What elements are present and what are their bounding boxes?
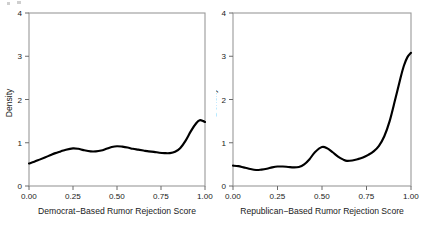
panel-democrat: 0 1 2 3 4 0.00 0.25 0.50 0.75 1.00 Democ… <box>0 0 216 228</box>
y-tick-label: 1 <box>17 139 22 148</box>
panel-democrat-svg: 0 1 2 3 4 0.00 0.25 0.50 0.75 1.00 Democ… <box>0 0 216 228</box>
corner-artifact-mark-2 <box>17 1 21 4</box>
y-tick-label: 3 <box>17 52 22 61</box>
x-axis-title: Republican−Based Rumor Rejection Score <box>240 206 404 216</box>
y-axis-ticks <box>229 13 233 186</box>
x-axis-title: Democrat−Based Rumor Rejection Score <box>38 206 196 216</box>
density-plot-figure: 0 1 2 3 4 0.00 0.25 0.50 0.75 1.00 Democ… <box>0 0 432 228</box>
x-tick-label: 0.50 <box>109 192 125 201</box>
y-axis-ticks <box>25 13 29 186</box>
corner-artifact-mark <box>7 2 10 5</box>
density-curve-republican <box>233 53 411 170</box>
x-tick-label: 0.25 <box>270 192 286 201</box>
y-tick-label: 2 <box>221 96 226 105</box>
y-tick-label: 3 <box>221 52 226 61</box>
x-axis-ticks <box>29 186 205 190</box>
x-tick-label: 0.00 <box>225 192 241 201</box>
x-tick-label: 0.25 <box>65 192 81 201</box>
x-tick-label: 1.00 <box>197 192 213 201</box>
y-tick-label: 1 <box>221 139 226 148</box>
x-tick-label: 1.00 <box>403 192 419 201</box>
panel-republican-svg: 0 1 2 3 4 0.00 0.25 0.50 0.75 1.00 Repub… <box>216 0 432 228</box>
x-tick-label: 0.75 <box>153 192 169 201</box>
y-tick-label: 2 <box>17 96 22 105</box>
y-axis-title: Density <box>216 88 218 117</box>
plot-frame <box>233 13 411 186</box>
y-axis-title: Density <box>4 88 14 117</box>
plot-frame <box>29 13 205 186</box>
x-axis-ticks <box>233 186 411 190</box>
y-tick-label: 0 <box>221 182 226 191</box>
panel-republican: 0 1 2 3 4 0.00 0.25 0.50 0.75 1.00 Repub… <box>216 0 432 228</box>
y-tick-label: 4 <box>221 9 226 18</box>
x-tick-label: 0.75 <box>359 192 375 201</box>
y-tick-label: 4 <box>17 9 22 18</box>
x-tick-label: 0.00 <box>21 192 37 201</box>
y-tick-label: 0 <box>17 182 22 191</box>
x-tick-label: 0.50 <box>314 192 330 201</box>
density-curve-democrat <box>29 120 205 163</box>
